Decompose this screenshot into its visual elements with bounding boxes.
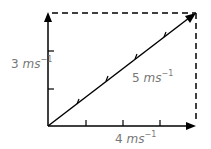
horizontal-label: 4 ms−1 [115, 133, 156, 145]
vector-diagram-svg [0, 0, 211, 149]
vector-diagram: 3 ms−1 5 ms−1 4 ms−1 [0, 0, 211, 149]
resultant-unit: ms [143, 71, 161, 85]
resultant-exp: −1 [161, 69, 173, 78]
resultant-value: 5 [132, 71, 140, 85]
resultant-label: 5 ms−1 [132, 72, 173, 84]
vertical-exp: −1 [40, 55, 52, 64]
resultant-vector [48, 13, 196, 126]
vertical-value: 3 [11, 57, 19, 71]
horizontal-vector [48, 120, 196, 130]
vertical-label: 3 ms−1 [11, 58, 52, 70]
horizontal-unit: ms [126, 132, 144, 146]
vertical-unit: ms [22, 57, 40, 71]
horizontal-exp: −1 [144, 130, 156, 139]
horizontal-value: 4 [115, 132, 123, 146]
